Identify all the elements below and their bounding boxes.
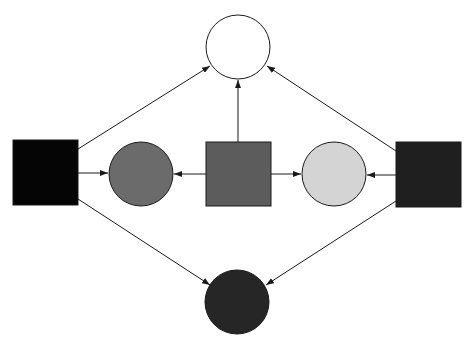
diagram-canvas [0,0,475,347]
edge-arrow-left-square-to-top-circle [78,66,210,149]
edge-arrow-right-square-to-top-circle [267,66,396,151]
node-bottom-circle [205,270,269,334]
node-right-square [396,142,461,207]
edge-arrow-right-square-to-bottom-circle [266,201,396,285]
node-left-circle [109,142,173,206]
node-top-circle [206,15,270,79]
node-center-square [206,142,271,206]
edge-arrow-left-square-to-bottom-circle [78,199,210,285]
node-left-square [13,140,78,205]
node-right-circle [302,142,366,206]
